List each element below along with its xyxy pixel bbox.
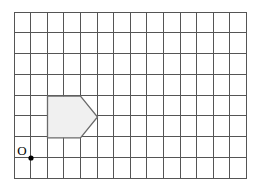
grid-lines — [14, 12, 246, 178]
grid-diagram: O — [0, 0, 257, 189]
pentagon-arrow-shape — [48, 96, 98, 138]
figure-root: O — [0, 0, 257, 189]
origin-dot — [28, 155, 33, 160]
origin-label: O — [17, 143, 26, 158]
